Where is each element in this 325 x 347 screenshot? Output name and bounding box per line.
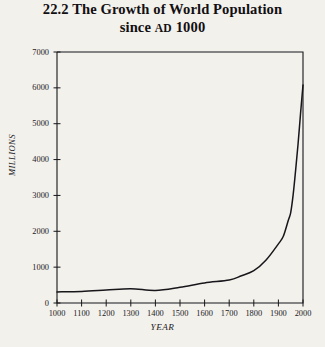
y-axis-tick-label: 3000 [15, 191, 49, 200]
figure-world-population-growth: 22.2 The Growth of World Population sinc… [0, 0, 325, 347]
y-axis-title: MILLIONS [7, 125, 17, 185]
chart-frame [57, 52, 303, 303]
chart-plot-area: 01000200030004000500060007000 1000110012… [0, 0, 325, 347]
y-axis-tick-label: 1000 [15, 263, 49, 272]
y-axis-tick-label: 7000 [15, 48, 49, 57]
population-data-line [57, 85, 303, 292]
y-axis-tick-label: 5000 [15, 119, 49, 128]
y-axis-tick-label: 6000 [15, 83, 49, 92]
y-axis-tick-label: 0 [15, 299, 49, 308]
y-axis-tick-label: 2000 [15, 227, 49, 236]
x-axis-title: YEAR [0, 322, 325, 332]
x-axis-tick-label: 2000 [285, 309, 321, 318]
chart-frame-border [57, 52, 303, 303]
y-axis-tick-label: 4000 [15, 155, 49, 164]
